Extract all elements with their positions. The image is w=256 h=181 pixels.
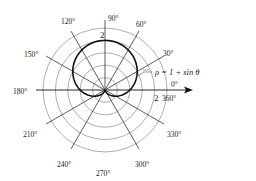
radial-label-2-top: 2 xyxy=(100,30,105,40)
grid-ray xyxy=(105,90,139,149)
angle-label-300: 300° xyxy=(135,160,149,169)
grid-ray xyxy=(46,90,105,124)
angle-label-150: 150° xyxy=(24,50,38,59)
equation-label: ρ = 1 + sin θ xyxy=(154,67,200,77)
angle-label-360: 360° xyxy=(162,94,176,103)
polar-plot: 2 2 ρ = 1 + sin θ 0° 30° 60° 90° 120° 15… xyxy=(0,0,256,181)
angle-label-330: 330° xyxy=(167,130,181,139)
angle-label-60: 60° xyxy=(136,20,147,29)
grid-ray xyxy=(71,90,105,149)
angle-label-90: 90° xyxy=(108,14,119,23)
angle-label-210: 210° xyxy=(23,130,37,139)
grid-ray xyxy=(105,31,139,90)
angle-label-120: 120° xyxy=(61,17,75,26)
angle-label-270: 270° xyxy=(96,169,110,178)
angle-label-180: 180° xyxy=(13,87,27,96)
angle-label-30: 30° xyxy=(163,49,174,58)
angle-label-0: 0° xyxy=(171,80,178,89)
polar-grid-rays xyxy=(46,20,164,149)
angle-label-240: 240° xyxy=(57,160,71,169)
radial-label-2-right: 2 xyxy=(154,93,159,103)
